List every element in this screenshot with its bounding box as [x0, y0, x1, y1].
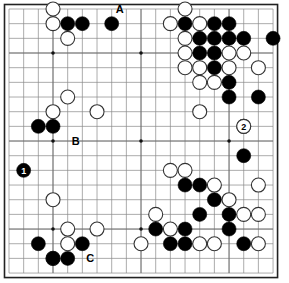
hoshi-point: [139, 139, 143, 143]
black-stone[interactable]: [46, 251, 60, 265]
white-stone[interactable]: [207, 237, 221, 251]
black-stone[interactable]: [222, 31, 236, 45]
hoshi-point: [51, 51, 55, 55]
white-stone[interactable]: [163, 222, 177, 236]
go-diagram-root: 12ABC: [0, 0, 289, 283]
black-stone[interactable]: [237, 31, 251, 45]
black-stone[interactable]: [163, 237, 177, 251]
numbered-white-stone[interactable]: [237, 119, 251, 133]
white-stone[interactable]: [61, 90, 75, 104]
white-stone[interactable]: [237, 207, 251, 221]
black-stone[interactable]: [266, 31, 280, 45]
white-stone[interactable]: [207, 178, 221, 192]
white-stone[interactable]: [46, 2, 60, 16]
black-stone[interactable]: [178, 178, 192, 192]
black-stone[interactable]: [193, 207, 207, 221]
white-stone[interactable]: [193, 61, 207, 75]
white-stone[interactable]: [46, 105, 60, 119]
hoshi-point: [139, 227, 143, 231]
white-stone[interactable]: [178, 46, 192, 60]
white-stone[interactable]: [178, 163, 192, 177]
black-stone[interactable]: [237, 149, 251, 163]
white-stone[interactable]: [163, 17, 177, 31]
black-stone[interactable]: [61, 17, 75, 31]
white-stone[interactable]: [251, 178, 265, 192]
white-stone[interactable]: [193, 75, 207, 89]
white-stone[interactable]: [61, 237, 75, 251]
hoshi-point: [51, 139, 55, 143]
black-stone[interactable]: [31, 119, 45, 133]
black-stone[interactable]: [251, 90, 265, 104]
hoshi-point: [139, 51, 143, 55]
white-stone[interactable]: [163, 163, 177, 177]
black-stone[interactable]: [61, 251, 75, 265]
go-board[interactable]: 12ABC: [0, 0, 289, 283]
white-stone[interactable]: [178, 31, 192, 45]
black-stone[interactable]: [207, 193, 221, 207]
black-stone[interactable]: [193, 178, 207, 192]
white-stone[interactable]: [237, 46, 251, 60]
white-stone[interactable]: [149, 207, 163, 221]
black-stone[interactable]: [237, 237, 251, 251]
black-stone[interactable]: [222, 207, 236, 221]
white-stone[interactable]: [90, 222, 104, 236]
white-stone[interactable]: [178, 2, 192, 16]
white-stone[interactable]: [193, 237, 207, 251]
black-stone[interactable]: [46, 119, 60, 133]
white-stone[interactable]: [222, 193, 236, 207]
white-stone[interactable]: [61, 222, 75, 236]
black-stone[interactable]: [178, 237, 192, 251]
black-stone[interactable]: [31, 237, 45, 251]
black-stone[interactable]: [193, 46, 207, 60]
white-stone[interactable]: [207, 75, 221, 89]
hoshi-point: [227, 139, 231, 143]
white-stone[interactable]: [251, 61, 265, 75]
white-stone[interactable]: [222, 46, 236, 60]
white-stone[interactable]: [90, 105, 104, 119]
black-stone[interactable]: [193, 31, 207, 45]
white-stone[interactable]: [193, 17, 207, 31]
white-stone[interactable]: [178, 61, 192, 75]
black-stone[interactable]: [222, 75, 236, 89]
white-stone[interactable]: [134, 237, 148, 251]
black-stone[interactable]: [75, 17, 89, 31]
black-stone[interactable]: [207, 61, 221, 75]
numbered-black-stone[interactable]: [17, 163, 31, 177]
black-stone[interactable]: [222, 222, 236, 236]
hoshi-point: [51, 227, 55, 231]
white-stone[interactable]: [61, 31, 75, 45]
white-stone[interactable]: [251, 207, 265, 221]
black-stone[interactable]: [149, 222, 163, 236]
white-stone[interactable]: [46, 193, 60, 207]
black-stone[interactable]: [75, 237, 89, 251]
black-stone[interactable]: [178, 17, 192, 31]
black-stone[interactable]: [207, 46, 221, 60]
white-stone[interactable]: [46, 17, 60, 31]
white-stone[interactable]: [251, 237, 265, 251]
black-stone[interactable]: [105, 17, 119, 31]
white-stone[interactable]: [193, 105, 207, 119]
go-board-canvas[interactable]: [0, 0, 289, 283]
black-stone[interactable]: [222, 90, 236, 104]
black-stone[interactable]: [178, 222, 192, 236]
white-stone[interactable]: [222, 61, 236, 75]
black-stone[interactable]: [222, 17, 236, 31]
black-stone[interactable]: [207, 17, 221, 31]
black-stone[interactable]: [207, 31, 221, 45]
